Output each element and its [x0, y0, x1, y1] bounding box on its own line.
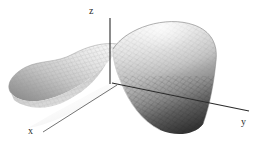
saddle-surface-figure: x y z [0, 0, 263, 147]
surface-left-wing [9, 43, 118, 107]
y-axis-label: y [241, 117, 246, 127]
surface-right-sheet [104, 10, 228, 142]
surface-plot-svg [0, 0, 263, 147]
x-axis-label: x [28, 126, 33, 136]
z-axis-label: z [89, 6, 93, 16]
